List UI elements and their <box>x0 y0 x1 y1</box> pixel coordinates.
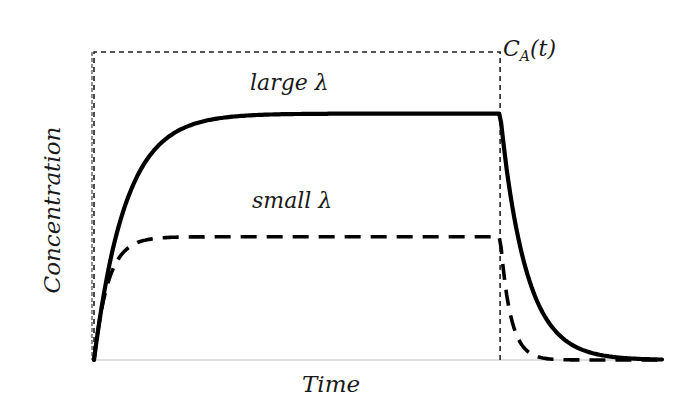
x-axis-label: Time <box>302 371 360 397</box>
ca-sub: A <box>520 48 530 64</box>
y-axis-label: Concentration <box>39 127 65 294</box>
ca-arg: (t) <box>530 36 556 61</box>
concentration-time-figure: large λ small λ CA(t) Time Concentration <box>0 0 689 408</box>
input-pulse-label: CA(t) <box>503 36 556 64</box>
ca-main: C <box>503 36 520 61</box>
large-lambda-label: large λ <box>250 70 329 95</box>
small-lambda-label: small λ <box>252 188 332 213</box>
small-lambda-curve <box>94 237 662 360</box>
plot-area <box>0 0 689 408</box>
